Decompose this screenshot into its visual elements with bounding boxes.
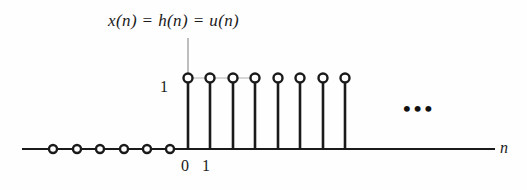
- unit-stems: [188, 78, 345, 149]
- sample-marker-n3: [251, 74, 260, 83]
- sample-marker-neg4: [96, 145, 104, 153]
- x-tick-label-one: 1: [202, 158, 210, 174]
- plot-title: x(n) = h(n) = u(n): [108, 12, 239, 29]
- sample-marker-neg3: [120, 145, 128, 153]
- unit-step-stem-plot: x(n) = h(n) = u(n) 1 0 1 n •••: [0, 0, 527, 190]
- sample-marker-neg5: [73, 145, 81, 153]
- x-tick-label-zero: 0: [181, 158, 189, 174]
- sample-marker-n5: [296, 74, 305, 83]
- amplitude-tick-label: 1: [160, 79, 168, 95]
- plot-canvas: [0, 0, 527, 190]
- sample-marker-n6: [319, 74, 328, 83]
- sample-marker-n7: [341, 74, 350, 83]
- sample-marker-n2: [229, 74, 238, 83]
- continuation-ellipsis: •••: [403, 98, 435, 120]
- unit-sample-markers: [184, 74, 350, 83]
- sample-marker-n1: [206, 74, 215, 83]
- sample-marker-n0: [184, 74, 193, 83]
- x-axis-label: n: [500, 140, 508, 156]
- sample-marker-neg2: [143, 145, 151, 153]
- sample-marker-neg1: [166, 145, 174, 153]
- sample-marker-n4: [274, 74, 283, 83]
- sample-marker-neg6: [49, 145, 57, 153]
